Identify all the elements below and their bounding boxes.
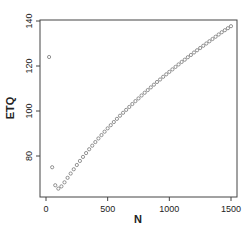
data-point	[162, 75, 165, 78]
data-point	[211, 37, 214, 40]
data-point	[51, 166, 54, 169]
data-point	[118, 114, 121, 117]
y-tick-label: 120	[24, 58, 34, 73]
data-point	[66, 176, 69, 179]
data-point	[47, 55, 50, 58]
data-point	[140, 94, 143, 97]
data-point	[202, 44, 205, 47]
data-point	[208, 40, 211, 43]
x-axis-label: N	[134, 213, 142, 225]
data-point	[143, 91, 146, 94]
plot-frame	[40, 20, 237, 197]
data-point	[220, 31, 223, 34]
data-point	[106, 127, 109, 130]
data-point	[152, 83, 155, 86]
data-point	[131, 102, 134, 105]
data-point	[149, 86, 152, 89]
data-point	[121, 111, 124, 114]
x-tick-label: 500	[100, 204, 115, 214]
data-point	[94, 140, 97, 143]
y-axis: 80100120140	[24, 13, 40, 161]
data-point	[186, 56, 189, 59]
scatter-chart: 050010001500 80100120140 N ETQ	[0, 0, 252, 233]
data-point	[112, 120, 115, 123]
y-tick-label: 80	[24, 151, 34, 161]
data-point	[183, 58, 186, 61]
data-point	[91, 144, 94, 147]
data-point	[63, 181, 66, 184]
y-tick-label: 100	[24, 103, 34, 118]
y-tick-label: 140	[24, 13, 34, 28]
x-tick-label: 1000	[159, 204, 179, 214]
data-point	[146, 88, 149, 91]
data-point	[97, 137, 100, 140]
data-point	[165, 73, 168, 76]
data-point	[158, 78, 161, 81]
data-point	[81, 155, 84, 158]
data-point	[69, 172, 72, 175]
data-point	[57, 187, 60, 190]
data-point	[134, 100, 137, 103]
data-point	[226, 27, 229, 30]
data-point	[199, 46, 202, 49]
data-point	[125, 108, 128, 111]
data-point	[180, 60, 183, 63]
data-point	[195, 49, 198, 52]
data-point	[229, 25, 232, 28]
x-tick-label: 1500	[221, 204, 241, 214]
data-points	[47, 25, 232, 191]
data-point	[75, 163, 78, 166]
data-point	[78, 159, 81, 162]
data-point	[214, 35, 217, 38]
data-point	[137, 97, 140, 100]
data-point	[189, 53, 192, 56]
x-tick-label: 0	[43, 204, 48, 214]
data-point	[128, 105, 131, 108]
y-axis-label: ETQ	[4, 96, 16, 119]
data-point	[192, 51, 195, 54]
data-point	[109, 124, 112, 127]
data-point	[88, 148, 91, 151]
data-point	[115, 117, 118, 120]
data-point	[171, 68, 174, 71]
data-point	[168, 70, 171, 73]
x-axis: 050010001500	[43, 197, 241, 214]
data-point	[100, 133, 103, 136]
data-point	[177, 63, 180, 66]
data-point	[205, 42, 208, 45]
data-point	[155, 80, 158, 83]
data-point	[60, 185, 63, 188]
data-point	[174, 65, 177, 68]
data-point	[217, 33, 220, 36]
data-point	[72, 168, 75, 171]
data-point	[223, 29, 226, 32]
data-point	[84, 151, 87, 154]
data-point	[103, 130, 106, 133]
data-point	[54, 184, 57, 187]
